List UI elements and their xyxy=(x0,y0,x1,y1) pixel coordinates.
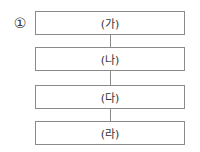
flow-step-3: (다) xyxy=(35,85,185,109)
connector-line xyxy=(110,71,111,85)
flow-step-1: (가) xyxy=(35,11,185,35)
option-marker: ① xyxy=(13,16,27,30)
connector-line xyxy=(110,109,111,121)
flow-step-4: (라) xyxy=(35,121,185,145)
flow-step-2: (나) xyxy=(35,47,185,71)
connector-line xyxy=(110,35,111,47)
